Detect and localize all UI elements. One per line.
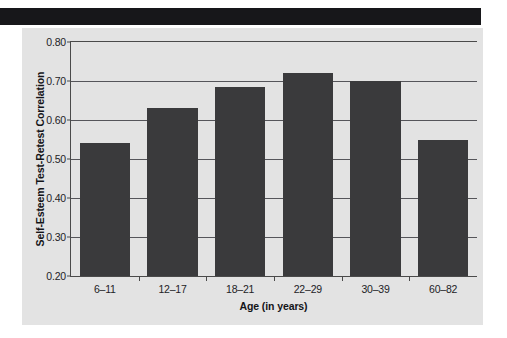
x-tick-label: 30–39: [361, 283, 389, 295]
x-tick-mark: [409, 276, 410, 281]
y-tick-label: 0.30: [46, 231, 71, 243]
y-tick-label: 0.60: [46, 114, 71, 126]
bar: [147, 108, 197, 276]
bar: [215, 87, 265, 276]
plot-area: 0.200.300.400.500.600.700.80 6–1112–1718…: [70, 41, 477, 277]
x-tick-mark: [274, 276, 275, 281]
x-tick-label: 22–29: [294, 283, 322, 295]
x-tick-label: 6–11: [94, 283, 116, 295]
y-tick-label: 0.50: [46, 153, 71, 165]
y-tick-label: 0.70: [46, 75, 71, 87]
bar: [283, 73, 333, 276]
bar: [80, 143, 130, 276]
y-axis-title-label: Self-Esteem Test-Retest Correlation: [34, 72, 46, 247]
x-axis-title: Age (in years): [70, 300, 477, 312]
x-tick-mark: [139, 276, 140, 281]
y-tick-label: 0.80: [46, 36, 71, 48]
top-black-banner: [0, 8, 481, 25]
y-axis-title: Self-Esteem Test-Retest Correlation: [33, 41, 47, 277]
x-tick-mark: [342, 276, 343, 281]
x-tick-mark: [206, 276, 207, 281]
bar: [418, 140, 468, 277]
bar: [350, 81, 400, 276]
x-tick-label: 60–82: [429, 283, 457, 295]
y-tick-label: 0.40: [46, 192, 71, 204]
x-tick-label: 12–17: [158, 283, 186, 295]
x-tick-label: 18–21: [226, 283, 254, 295]
y-tick-label: 0.20: [46, 270, 71, 282]
bars-group: [71, 42, 477, 276]
